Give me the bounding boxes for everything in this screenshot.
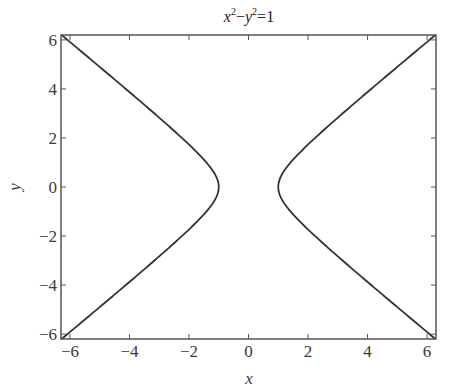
x-tick-label: 2 [304, 342, 313, 361]
title-x: x [223, 8, 231, 25]
hyperbola-chart: x2−y2=1 −6−4−20246 −6−4−20246 x y [0, 0, 449, 392]
y-axis-label: y [5, 183, 24, 193]
title-rhs: =1 [257, 8, 274, 25]
y-tick-label: 2 [49, 129, 58, 148]
title-minus: − [236, 8, 245, 25]
x-axis-label: x [244, 369, 253, 388]
y-tick-label: −4 [39, 276, 58, 295]
x-axis-ticks: −6−4−20246 [61, 35, 431, 361]
y-tick-label: 4 [49, 80, 58, 99]
x-tick-label: −4 [120, 342, 139, 361]
x-tick-label: 6 [423, 342, 432, 361]
y-tick-label: −6 [39, 325, 57, 344]
y-tick-label: −2 [39, 227, 57, 246]
y-tick-label: 6 [49, 31, 58, 50]
y-tick-label: 0 [49, 178, 58, 197]
x-tick-label: 4 [363, 342, 372, 361]
x-tick-label: −6 [61, 342, 79, 361]
left-branch-curve [62, 35, 219, 339]
x-tick-label: −2 [180, 342, 198, 361]
chart-title: x2−y2=1 [223, 6, 274, 26]
y-axis-ticks: −6−4−20246 [39, 31, 436, 344]
right-branch-curve [278, 35, 435, 339]
svg-text:x2−y2=1: x2−y2=1 [223, 6, 274, 26]
x-tick-label: 0 [244, 342, 253, 361]
plot-curves [62, 35, 436, 339]
